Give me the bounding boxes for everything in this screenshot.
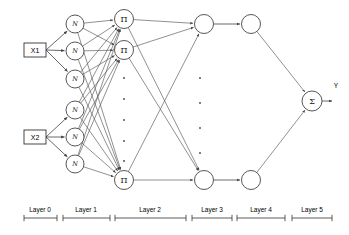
edge-mf-to-product [79, 60, 118, 130]
layer-scale-item-2: Layer 2 [115, 206, 186, 222]
norm-node-1 [195, 171, 214, 190]
mf-node-0: N [66, 15, 84, 33]
mf-node-2: N [66, 70, 84, 88]
layer-scale-bar: Layer 0Layer 1Layer 2Layer 3Layer 4Layer… [24, 206, 332, 222]
consequent-node-1 [242, 171, 261, 190]
mf-node-symbol: N [71, 20, 78, 28]
edge-consequent-to-sum [257, 31, 305, 92]
layer-label-5: Layer 5 [301, 206, 323, 214]
edge-mf-to-product [84, 167, 114, 177]
neural-network-diagram: X1X2 NNNNNN ΠΠΠ Σ Y Layer 0Layer 1Layer … [0, 0, 349, 235]
layer3-vertical-dots-dot [199, 77, 201, 79]
mf-node-5: N [66, 155, 84, 173]
product-node-2: Π [115, 171, 134, 190]
mf-node-1: N [66, 42, 84, 60]
layer3-vertical-dots-dot [199, 127, 201, 129]
product-node-0: Π [115, 10, 134, 29]
edges-layer4-to-layer5 [257, 31, 305, 172]
mf-node-symbol: N [71, 133, 78, 141]
edge-mf-to-product [79, 29, 119, 102]
consequent-node-0 [242, 15, 261, 34]
edge-product-to-norm [129, 58, 198, 171]
output-label-y: Y [334, 82, 339, 89]
edge-mf-to-product [84, 20, 113, 23]
norm-node-circle [195, 171, 214, 190]
layer-label-2: Layer 2 [139, 206, 161, 214]
ellipsis-dots [123, 77, 201, 162]
layer2-vertical-dots-dot [123, 160, 125, 162]
mf-node-4: N [66, 128, 84, 146]
layer-scale-item-1: Layer 1 [63, 206, 110, 222]
mf-node-symbol: N [71, 106, 78, 114]
input-nodes: X1X2 [24, 43, 46, 144]
norm-node-0 [195, 15, 214, 34]
layer2-vertical-dots-dot [123, 140, 125, 142]
mf-node-symbol: N [71, 160, 78, 168]
edges-layer2-to-layer3 [128, 20, 199, 180]
layer-scale-item-4: Layer 4 [237, 206, 285, 222]
edge-input-to-mf [46, 50, 65, 51]
layer2-vertical-dots-dot [123, 98, 125, 100]
output-label-group: Y [334, 82, 339, 89]
layer3-vertical-dots-dot [199, 152, 201, 154]
edge-product-to-norm [133, 20, 193, 24]
product-node-1: Π [115, 41, 134, 60]
edge-mf-to-product [83, 56, 115, 75]
input-node-x2: X2 [24, 130, 46, 144]
sum-node-symbol: Σ [309, 97, 315, 106]
edge-product-to-norm [133, 27, 194, 47]
input-label-x1: X1 [31, 47, 40, 54]
edges-input-to-layer1 [46, 31, 68, 157]
layer-label-0: Layer 0 [29, 206, 51, 214]
input-node-x1: X1 [24, 43, 46, 57]
edge-product-to-norm [128, 34, 199, 172]
edge-input-to-mf [46, 137, 67, 157]
mf-node-symbol: N [71, 75, 78, 83]
layer2-vertical-dots-dot [123, 119, 125, 121]
consequent-node-circle [242, 15, 261, 34]
layer2-vertical-dots-dot [123, 77, 125, 79]
edge-input-to-mf [46, 31, 67, 50]
layer3-nodes [195, 15, 214, 190]
layer-scale-item-3: Layer 3 [192, 206, 232, 222]
layer4-nodes [242, 15, 261, 190]
norm-node-circle [195, 15, 214, 34]
mf-node-symbol: N [71, 47, 78, 55]
layer-label-3: Layer 3 [201, 206, 223, 214]
input-label-x2: X2 [31, 134, 40, 141]
edge-input-to-mf [46, 117, 67, 137]
layer5-nodes: Σ [302, 91, 322, 111]
layer3-vertical-dots-dot [199, 102, 201, 104]
layer-label-1: Layer 1 [75, 206, 97, 214]
edge-input-to-mf [46, 50, 68, 72]
mf-node-3: N [66, 101, 84, 119]
sum-node-0: Σ [302, 91, 322, 111]
edge-consequent-to-sum [257, 110, 305, 172]
layer-scale-item-0: Layer 0 [24, 206, 57, 222]
layer-scale-item-5: Layer 5 [292, 206, 332, 222]
product-node-symbol: Π [121, 176, 128, 185]
edges-layer1-to-layer2 [78, 20, 121, 176]
product-node-symbol: Π [121, 15, 128, 24]
edges-layer3-to-layer4 [214, 24, 241, 180]
edge-mf-to-product [82, 143, 116, 173]
edge-mf-to-product [79, 60, 120, 156]
network-svg: X1X2 NNNNNN ΠΠΠ Σ Y Layer 0Layer 1Layer … [0, 0, 349, 235]
product-node-symbol: Π [121, 46, 128, 55]
edge-mf-to-product [80, 117, 118, 171]
edge-mf-to-product [83, 25, 115, 46]
layer-label-4: Layer 4 [250, 206, 272, 214]
edge-product-to-norm [128, 28, 199, 171]
consequent-node-circle [242, 171, 261, 190]
